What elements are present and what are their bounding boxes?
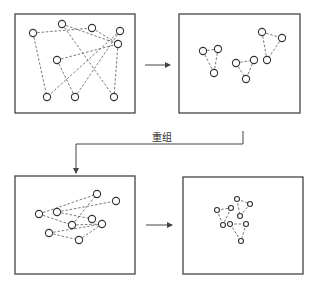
node-circle bbox=[29, 29, 36, 36]
dashed-edge bbox=[79, 224, 102, 240]
node-circle bbox=[75, 236, 82, 243]
node-circle bbox=[210, 69, 217, 76]
node-circle bbox=[58, 20, 65, 27]
dashed-edge bbox=[114, 44, 118, 97]
node-circle bbox=[215, 208, 220, 213]
panel-top-right bbox=[179, 14, 300, 113]
node-circle bbox=[278, 34, 285, 41]
node-circle bbox=[239, 239, 244, 244]
node-circle bbox=[35, 210, 42, 217]
node-circle bbox=[221, 223, 226, 228]
panel-bottom-right bbox=[183, 177, 303, 274]
dashed-edge bbox=[262, 32, 267, 60]
regrouping-diagram bbox=[0, 0, 315, 289]
node-circle bbox=[112, 197, 119, 204]
node-circle bbox=[199, 47, 206, 54]
node-circle bbox=[258, 28, 265, 35]
dashed-edge bbox=[57, 212, 92, 219]
node-circle bbox=[232, 59, 239, 66]
node-circle bbox=[238, 214, 243, 219]
node-circle bbox=[250, 56, 257, 63]
panel-top-left bbox=[15, 14, 135, 113]
node-circle bbox=[235, 197, 240, 202]
dashed-edge bbox=[39, 194, 97, 214]
dashed-edge bbox=[33, 28, 92, 33]
node-circle bbox=[229, 206, 234, 211]
node-circle bbox=[45, 229, 52, 236]
node-circle bbox=[93, 190, 100, 197]
node-circle bbox=[98, 220, 105, 227]
dashed-edge bbox=[57, 60, 75, 97]
node-circle bbox=[43, 93, 50, 100]
node-circle bbox=[214, 45, 221, 52]
node-circle bbox=[68, 221, 75, 228]
node-circle bbox=[110, 93, 117, 100]
node-circle bbox=[71, 93, 78, 100]
panel-frame bbox=[183, 177, 303, 274]
node-circle bbox=[228, 222, 233, 227]
node-circle bbox=[53, 56, 60, 63]
regroup-label: 重组 bbox=[152, 129, 172, 144]
panel-bottom-left bbox=[15, 176, 135, 274]
node-circle bbox=[88, 24, 95, 31]
node-circle bbox=[244, 222, 249, 227]
node-circle bbox=[116, 27, 123, 34]
dashed-edge bbox=[49, 233, 79, 240]
node-circle bbox=[114, 40, 121, 47]
node-circle bbox=[263, 56, 270, 63]
dashed-edge bbox=[57, 44, 118, 60]
node-circle bbox=[53, 208, 60, 215]
dashed-edge bbox=[33, 33, 47, 97]
node-circle bbox=[88, 215, 95, 222]
dashed-edge bbox=[62, 24, 114, 97]
dashed-edge bbox=[75, 31, 120, 97]
node-circle bbox=[248, 202, 253, 207]
node-circle bbox=[242, 75, 249, 82]
